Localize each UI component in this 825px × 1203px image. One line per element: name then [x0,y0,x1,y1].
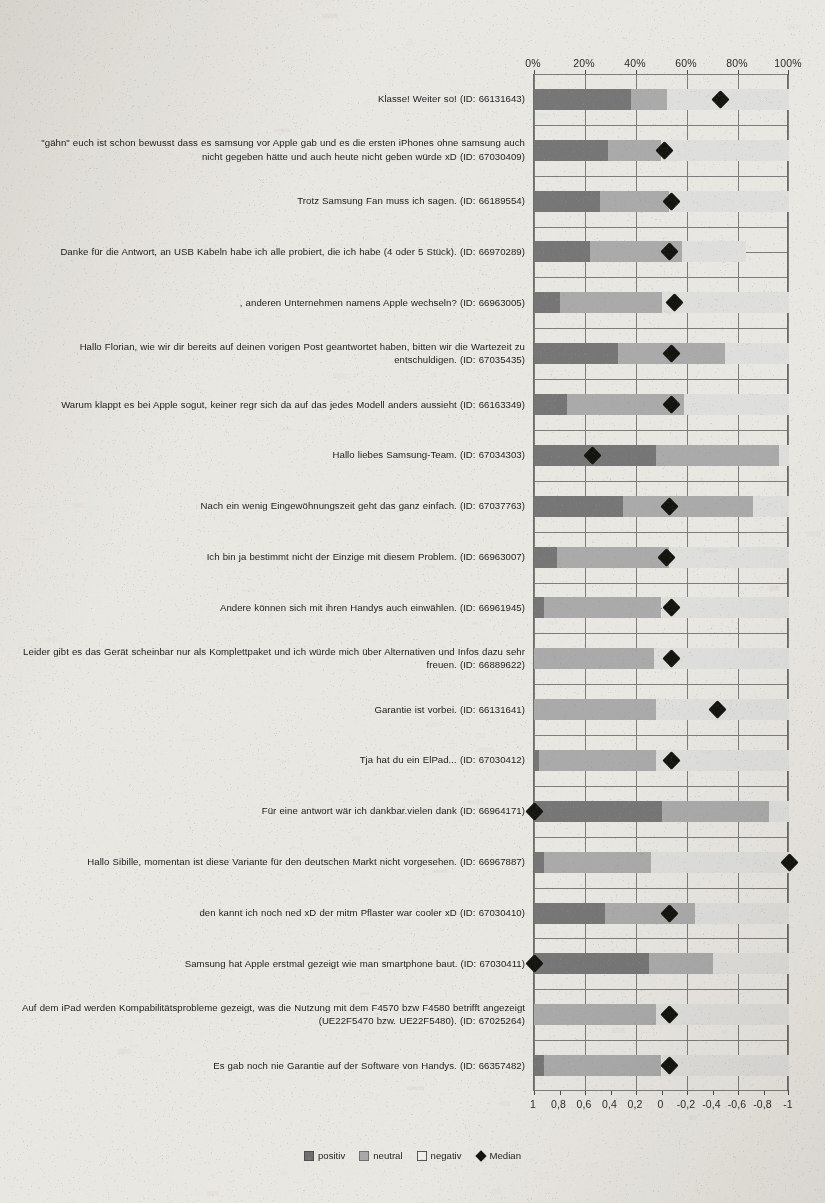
bar-segment-neutral [608,140,662,161]
row-label: Danke für die Antwort, an USB Kabeln hab… [21,245,533,259]
legend-item-median: Median [476,1150,521,1161]
bottom-axis-tick: -0,4 [702,1098,721,1110]
row-label: Tja hat du ein ElPad... (ID: 67030412) [21,754,533,768]
bar-segment-neutral [534,699,656,720]
bottom-axis-tick: 1 [530,1098,536,1110]
bar-segment-positiv [534,496,623,517]
gridline-horizontal [534,989,787,990]
bar-segment-negativ [684,394,789,415]
chart-legend: positiv neutral negativ Median [0,1150,825,1161]
bar-segment-negativ [662,597,790,618]
bar-segment-negativ [779,445,789,466]
bar-segment-neutral [656,445,778,466]
bar-segment-neutral [662,801,769,822]
neutral-swatch-icon [359,1151,369,1161]
bar-segment-neutral [605,903,694,924]
gridline-horizontal [534,837,787,838]
gridline-horizontal [534,176,787,177]
gridline-horizontal [534,430,787,431]
bar-segment-positiv [534,953,649,974]
row-label: Klasse! Weiter so! (ID: 66131643) [21,93,533,107]
bar-segment-negativ [769,801,789,822]
axis-tick-mark [788,70,789,75]
gridline-horizontal [534,532,787,533]
row-label: Samsung hat Apple erstmal gezeigt wie ma… [21,957,533,971]
gridline-horizontal [534,277,787,278]
bar-segment-negativ [753,496,789,517]
positiv-swatch-icon [304,1151,314,1161]
bottom-value-axis: 10,80,60,40,20-0,2-0,4-0,6-0,8-1 [0,1098,825,1112]
row-label: Andere können sich mit ihren Handys auch… [21,601,533,615]
stacked-bar [534,801,789,822]
row-label: Leider gibt es das Gerät scheinbar nur a… [21,645,533,672]
gridline-horizontal [534,888,787,889]
row-label: Hallo Sibille, momentan ist diese Varian… [21,855,533,869]
bottom-axis-tick: -0,6 [728,1098,747,1110]
stacked-bar [534,852,789,873]
bar-segment-negativ [682,241,746,262]
row-label: Hallo Florian, wie wir dir bereits auf d… [21,340,533,367]
bar-segment-negativ [651,852,789,873]
gridline-horizontal [534,786,787,787]
bar-segment-neutral [544,597,661,618]
axis-tick-mark [788,1090,789,1095]
bar-segment-positiv [534,903,605,924]
stacked-bar [534,89,789,110]
bar-segment-positiv [534,191,600,212]
bar-segment-negativ [713,953,790,974]
bar-segment-positiv [534,140,608,161]
bottom-axis-tick: 0,8 [551,1098,566,1110]
top-axis-tick: 40% [624,57,646,69]
top-axis-tick: 100% [774,57,802,69]
bar-segment-positiv [534,801,662,822]
bar-segment-neutral [544,852,651,873]
legend-item-neutral: neutral [359,1150,402,1161]
bar-segment-positiv [534,1055,544,1076]
gridline-horizontal [534,379,787,380]
row-label: Hallo liebes Samsung-Team. (ID: 67034303… [21,449,533,463]
row-label: Trotz Samsung Fan muss ich sagen. (ID: 6… [21,194,533,208]
legend-label-negativ: negativ [431,1150,462,1161]
bottom-axis-tick: -0,2 [677,1098,696,1110]
gridline-horizontal [534,1040,787,1041]
gridline-horizontal [534,938,787,939]
gridline-horizontal [534,481,787,482]
top-axis-tick: 20% [573,57,595,69]
gridline-horizontal [534,735,787,736]
row-label: Auf dem iPad werden Kompabilitätsproblem… [21,1001,533,1028]
bar-segment-negativ [695,903,789,924]
negativ-swatch-icon [417,1151,427,1161]
bar-segment-positiv [534,394,567,415]
gridline-horizontal [534,328,787,329]
bar-segment-negativ [662,1055,790,1076]
bar-segment-negativ [725,343,789,364]
stacked-bar [534,648,789,669]
row-label: , anderen Unternehmen namens Apple wechs… [21,296,533,310]
row-label: Ich bin ja bestimmt nicht der Einzige mi… [21,550,533,564]
bar-segment-neutral [534,648,654,669]
stacked-bar [534,343,789,364]
bottom-axis-tick: -0,8 [753,1098,772,1110]
bottom-axis-tick: 0,2 [628,1098,643,1110]
row-label: Es gab noch nie Garantie auf der Softwar… [21,1059,533,1073]
legend-label-neutral: neutral [373,1150,402,1161]
bar-segment-neutral [649,953,713,974]
median-diamond-icon [475,1150,486,1161]
row-label: Nach ein wenig Eingewöhnungszeit geht da… [21,499,533,513]
stacked-bar [534,953,789,974]
bottom-axis-tick: 0 [658,1098,664,1110]
stacked-bar [534,394,789,415]
bottom-axis-tick: 0,6 [577,1098,592,1110]
bar-segment-positiv [534,597,544,618]
top-axis-tick: 60% [675,57,697,69]
top-axis-tick: 80% [726,57,748,69]
bar-segment-neutral [600,191,669,212]
gridline-vertical [788,74,789,1091]
gridline-horizontal [534,684,787,685]
top-percent-axis: 0%20%40%60%80%100% [0,57,825,71]
gridline-horizontal [534,583,787,584]
bar-segment-neutral [539,750,656,771]
bar-segment-neutral [560,292,662,313]
bar-segment-positiv [534,852,544,873]
legend-item-positiv: positiv [304,1150,345,1161]
